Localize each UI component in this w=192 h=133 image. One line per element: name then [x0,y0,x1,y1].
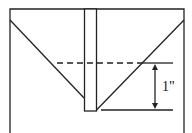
arrow-head-up-icon [152,64,158,70]
dimension-label: 1" [162,79,175,94]
arrow-head-down-icon [152,103,158,109]
center-rod [85,9,97,111]
funnel-diagram: 1" [0,0,192,133]
left-diagonal [10,20,84,98]
right-diagonal [97,20,185,110]
